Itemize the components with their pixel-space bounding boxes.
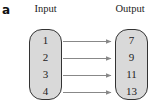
mapping-arrows xyxy=(0,0,155,105)
